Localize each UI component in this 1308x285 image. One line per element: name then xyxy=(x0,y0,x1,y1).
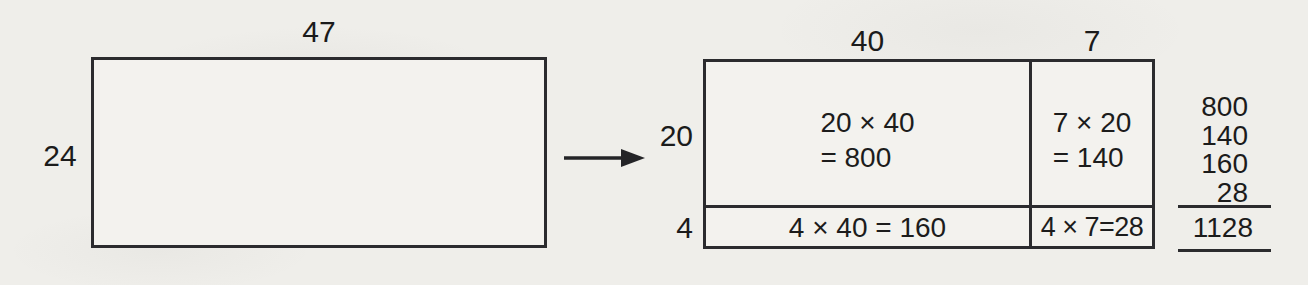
sum-total: 1128 xyxy=(1140,213,1253,243)
sum-rule-top xyxy=(1178,205,1271,208)
cell-20x40-result: = 800 xyxy=(820,140,914,175)
addend-140: 140 xyxy=(1140,122,1248,151)
col-label-7: 7 xyxy=(1029,25,1155,57)
row-label-4: 4 xyxy=(643,212,693,244)
cell-7x20: 7 × 20 = 140 xyxy=(1032,62,1152,205)
left-rectangle xyxy=(91,57,547,248)
row-label-20: 20 xyxy=(643,120,693,152)
cell-4x40: 4 × 40 = 160 xyxy=(706,208,1029,246)
cell-7x20-result: = 140 xyxy=(1053,140,1132,175)
partial-products-list: 800 140 160 28 xyxy=(1140,93,1248,207)
left-rect-height-label: 24 xyxy=(36,140,84,172)
arrow-right-icon xyxy=(557,145,649,171)
col-label-40: 40 xyxy=(703,25,1032,57)
addend-160: 160 xyxy=(1140,150,1248,179)
area-model-figure: 47 24 40 7 20 4 20 × 40 = 800 7 × 20 = 1… xyxy=(0,0,1308,285)
left-rect-width-label: 47 xyxy=(91,16,547,48)
addend-800: 800 xyxy=(1140,93,1248,122)
sum-rule-bottom xyxy=(1178,249,1271,252)
cell-20x40-expression: 20 × 40 xyxy=(820,105,914,140)
cell-7x20-expression: 7 × 20 xyxy=(1053,105,1132,140)
addend-28: 28 xyxy=(1140,179,1248,208)
partitioned-rectangle: 20 × 40 = 800 7 × 20 = 140 4 × 40 = 160 … xyxy=(703,59,1155,249)
cell-4x7: 4 × 7=28 xyxy=(1032,208,1152,246)
cell-20x40: 20 × 40 = 800 xyxy=(706,62,1029,205)
